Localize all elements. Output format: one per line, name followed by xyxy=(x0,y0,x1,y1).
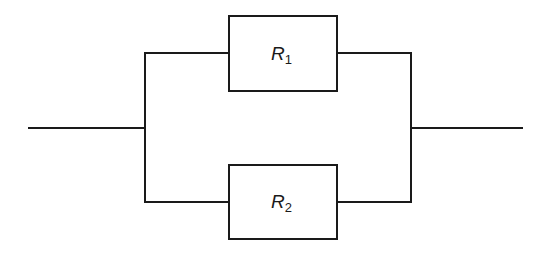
circuit-wires xyxy=(0,0,545,256)
r1-subscript: 1 xyxy=(285,52,292,67)
resistor-r2-label: R2 xyxy=(271,192,292,214)
resistor-r1-label: R1 xyxy=(271,44,292,66)
circuit-diagram: R1 R2 xyxy=(0,0,545,256)
r2-subscript: 2 xyxy=(285,200,292,215)
r1-symbol: R xyxy=(271,43,285,64)
r2-symbol: R xyxy=(271,191,285,212)
